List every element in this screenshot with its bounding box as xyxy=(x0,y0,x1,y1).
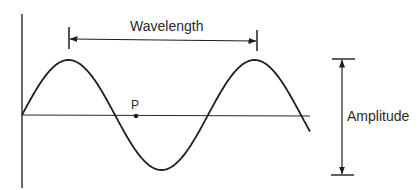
wave-diagram xyxy=(0,0,419,190)
wavelength-arrow-line xyxy=(160,40,256,41)
point-p-label: P xyxy=(131,99,139,111)
amplitude-label: Amplitude xyxy=(347,109,409,123)
horizontal-axis xyxy=(22,115,310,116)
point-p-marker xyxy=(134,114,139,119)
wavelength-arrow-line xyxy=(70,39,160,40)
wavelength-label: Wavelength xyxy=(130,19,203,33)
